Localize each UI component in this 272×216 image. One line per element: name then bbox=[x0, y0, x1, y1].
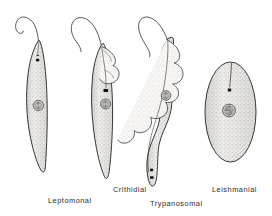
illustration-plate: Leptomonal Crithidial bbox=[0, 0, 272, 216]
label-leptomonal: Leptomonal bbox=[48, 196, 92, 205]
trypanosomal-kinetoplast bbox=[150, 169, 153, 172]
crithidial-kinetoplast bbox=[104, 89, 109, 92]
trypanosomatid-forms-figure: Leptomonal Crithidial bbox=[0, 0, 272, 216]
trypanosomal-basal-body bbox=[150, 176, 154, 179]
leptomonal-kinetoplast bbox=[36, 59, 40, 62]
label-trypanosomal: Trypanosomal bbox=[150, 199, 203, 208]
leishmanial-kinetoplast bbox=[228, 88, 231, 91]
label-crithidial: Crithidial bbox=[113, 185, 147, 194]
label-leishmanial: Leishmanial bbox=[212, 185, 257, 194]
